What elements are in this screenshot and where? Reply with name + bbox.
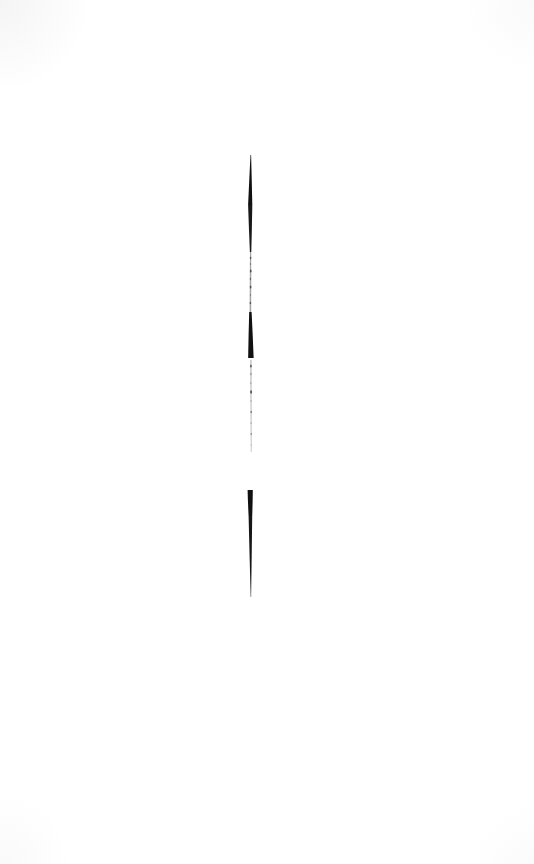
stroke-segment-group <box>248 155 254 597</box>
stroke-segment-lower-head <box>248 490 253 516</box>
stroke-segment-exit-taper <box>249 516 253 597</box>
stroke-speckle-14 <box>251 433 252 435</box>
stroke-speckle-0 <box>250 257 252 260</box>
stroke-segment-entry-taper <box>248 155 252 205</box>
stroke-speckle-1 <box>250 263 251 265</box>
stroke-speckle-13 <box>251 422 252 424</box>
stroke-speckle-11 <box>250 400 251 402</box>
ink-stroke-artwork <box>0 0 534 864</box>
stroke-speckle-2 <box>250 269 252 272</box>
stroke-segment-upper-body <box>248 205 252 252</box>
stroke-speckle-6 <box>250 302 252 305</box>
stroke-speckle-5 <box>250 294 251 296</box>
stroke-segment-mid-blob <box>248 312 254 358</box>
stroke-speckle-3 <box>250 278 251 280</box>
stroke-speckle-7 <box>250 364 252 367</box>
stroke-speckle-4 <box>250 285 252 288</box>
page-canvas <box>0 0 534 864</box>
stroke-speckle-12 <box>250 411 252 414</box>
stroke-speckle-9 <box>250 382 251 384</box>
stroke-speckle-10 <box>250 390 252 393</box>
stroke-speckle-15 <box>251 444 252 446</box>
stroke-speckle-8 <box>250 373 251 375</box>
